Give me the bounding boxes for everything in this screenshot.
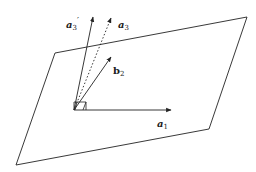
label-a3-prime: a3′ bbox=[66, 16, 79, 32]
vector-a3-dotted-arrow bbox=[74, 18, 111, 110]
label-a3: a3 bbox=[118, 19, 129, 32]
label-a1: a1 bbox=[157, 118, 168, 131]
label-b2: b2 bbox=[113, 65, 124, 78]
vector-diagram: a1 a3′ a3 b2 bbox=[0, 0, 256, 172]
plane-parallelogram bbox=[16, 17, 247, 165]
